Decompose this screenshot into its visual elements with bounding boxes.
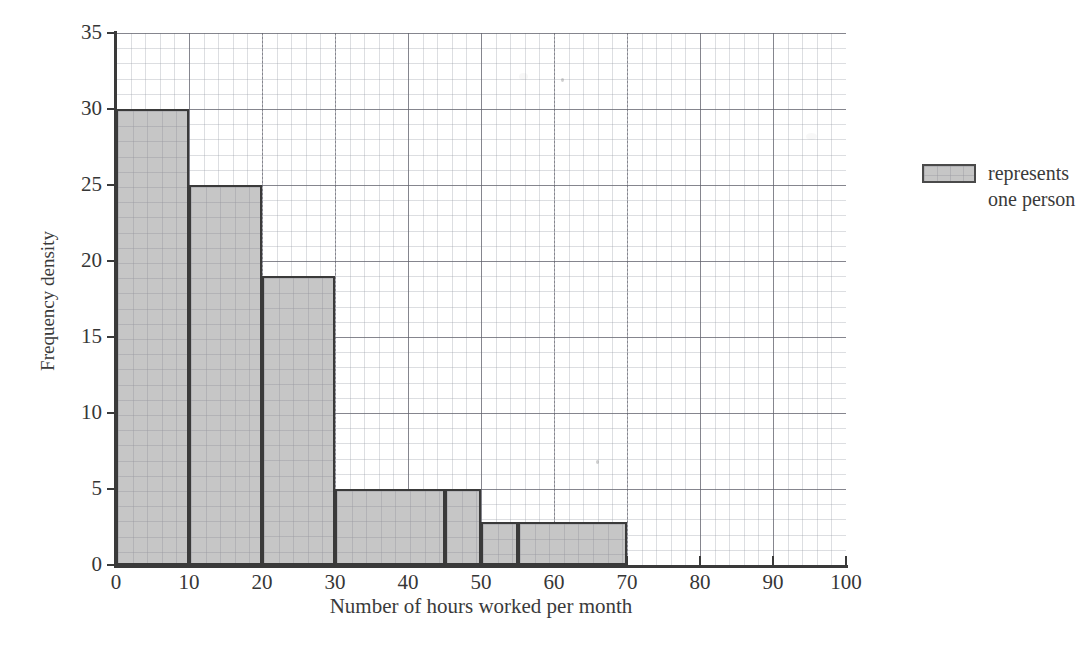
y-axis-title: Frequency density xyxy=(37,191,59,411)
x-axis-title: Number of hours worked per month xyxy=(116,594,846,619)
y-tick-label: 35 xyxy=(62,22,102,43)
x-tick-mark xyxy=(699,556,701,567)
histogram-bar xyxy=(116,109,189,565)
y-tick-label: 20 xyxy=(62,250,102,271)
x-tick-label: 80 xyxy=(670,570,730,594)
histogram-bar xyxy=(481,522,518,565)
x-tick-mark xyxy=(845,556,847,567)
legend-line-2: one person xyxy=(988,186,1075,212)
y-tick-label: 15 xyxy=(62,326,102,347)
histogram-bar xyxy=(262,276,335,565)
y-tick-label: 5 xyxy=(62,478,102,499)
histogram-bar xyxy=(445,489,482,565)
y-tick-label: 25 xyxy=(62,174,102,195)
x-tick-label: 50 xyxy=(451,570,511,594)
x-tick-label: 60 xyxy=(524,570,584,594)
legend-line-1: represents xyxy=(988,160,1075,186)
x-tick-label: 30 xyxy=(305,570,365,594)
histogram-bar xyxy=(189,185,262,565)
x-tick-label: 0 xyxy=(86,570,146,594)
y-tick-label: 30 xyxy=(62,98,102,119)
x-tick-label: 20 xyxy=(232,570,292,594)
legend: represents one person xyxy=(922,160,1075,212)
x-tick-label: 10 xyxy=(159,570,219,594)
x-tick-label: 40 xyxy=(378,570,438,594)
y-tick-label: 10 xyxy=(62,402,102,423)
histogram-bar xyxy=(518,522,628,565)
x-tick-label: 70 xyxy=(597,570,657,594)
histogram-figure: 05101520253035 0102030405060708090100 Fr… xyxy=(0,0,1079,655)
x-tick-label: 90 xyxy=(743,570,803,594)
x-tick-mark xyxy=(772,556,774,567)
legend-text: represents one person xyxy=(988,160,1075,212)
x-tick-label: 100 xyxy=(816,570,876,594)
histogram-bar xyxy=(335,489,445,565)
legend-swatch-icon xyxy=(922,164,976,183)
y-tick-mark xyxy=(107,32,117,34)
